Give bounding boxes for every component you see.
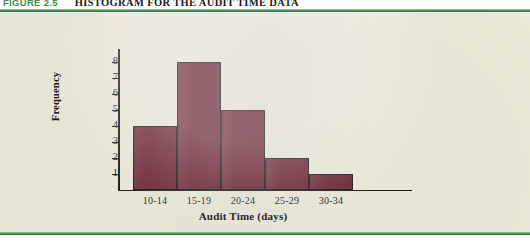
x-axis-title: Audit Time (days) bbox=[133, 210, 353, 222]
histogram-bar bbox=[177, 62, 221, 190]
x-axis-tick-label: 30-34 bbox=[302, 195, 360, 206]
y-axis-tick-label: 2 bbox=[96, 151, 118, 162]
y-axis-tick-label: 4 bbox=[96, 119, 118, 130]
divider-rule-top bbox=[0, 9, 530, 12]
y-axis-tick-label: 7 bbox=[96, 71, 118, 82]
histogram-bar bbox=[309, 174, 353, 190]
y-axis-line bbox=[118, 49, 120, 191]
figure-title: HISTOGRAM FOR THE AUDIT TIME DATA bbox=[75, 0, 299, 8]
y-axis-tick-label: 5 bbox=[96, 103, 118, 114]
y-axis-title: Frequency bbox=[50, 37, 61, 157]
y-axis-tick-label: 8 bbox=[96, 55, 118, 66]
y-axis-tick-label: 6 bbox=[96, 87, 118, 98]
y-axis-tick-mark bbox=[112, 78, 118, 79]
y-axis-tick-mark bbox=[112, 142, 118, 143]
y-axis-tick-label: 1 bbox=[96, 167, 118, 178]
y-axis-tick-mark bbox=[112, 62, 118, 63]
y-axis-tick-mark bbox=[112, 158, 118, 159]
y-axis-tick-mark bbox=[112, 110, 118, 111]
histogram-bar bbox=[133, 126, 177, 190]
histogram-panel: Frequency 12345678 10-1415-1920-2425-293… bbox=[0, 13, 530, 232]
x-axis-line bbox=[118, 190, 412, 192]
histogram-bar bbox=[221, 110, 265, 190]
y-axis-tick-label: 3 bbox=[96, 135, 118, 146]
y-axis-tick-mark bbox=[112, 94, 118, 95]
y-axis-tick-mark bbox=[112, 174, 118, 175]
bar-series bbox=[133, 62, 353, 190]
plot-area: Frequency 12345678 10-1415-1920-2425-293… bbox=[0, 13, 530, 232]
divider-rule-bottom bbox=[0, 232, 530, 235]
histogram-bar bbox=[265, 158, 309, 190]
figure-number-label: FIGURE 2.5 bbox=[3, 0, 58, 8]
y-axis-tick-mark bbox=[112, 126, 118, 127]
